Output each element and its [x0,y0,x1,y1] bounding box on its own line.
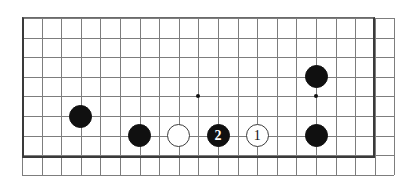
grid-line-horizontal [22,96,394,97]
grid-line-horizontal [22,155,394,156]
grid-line-horizontal [22,57,394,58]
stone-move-number: 1 [254,129,261,143]
black-stone-a[interactable] [69,105,92,128]
black-stone-move-2[interactable]: 2 [207,124,230,147]
star-point-right [314,94,318,98]
white-stone-a[interactable] [167,124,190,147]
black-stone-d[interactable] [305,124,328,147]
grid-line-horizontal [22,18,394,19]
grid-line-horizontal [22,175,394,176]
grid-line-horizontal [22,77,394,78]
board-surface: 21 [22,17,376,159]
white-stone-move-1[interactable]: 1 [246,124,269,147]
star-point-left [196,94,200,98]
black-stone-c[interactable] [305,65,328,88]
stone-move-number: 2 [215,129,222,143]
black-stone-b[interactable] [128,124,151,147]
grid-line-horizontal [22,38,394,39]
